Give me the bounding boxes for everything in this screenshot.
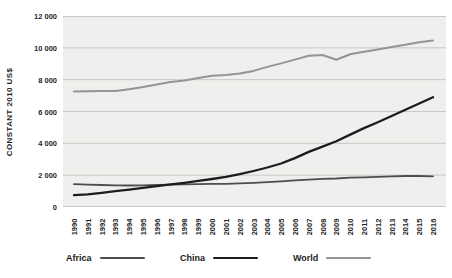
x-tick-label: 1998 xyxy=(180,219,189,236)
x-tick-label: 1996 xyxy=(152,219,161,236)
y-tick-label: 0 xyxy=(0,203,57,212)
x-tick-label: 2001 xyxy=(221,219,230,236)
y-tick-label: 10 000 xyxy=(0,43,57,52)
y-tick-label: 8 000 xyxy=(0,75,57,84)
line-chart-svg xyxy=(63,16,446,207)
legend-label-china: China xyxy=(180,253,205,263)
x-tick-label: 1997 xyxy=(166,219,175,236)
y-tick-label: 2 000 xyxy=(0,171,57,180)
legend-item-china: China xyxy=(180,252,258,264)
x-tick-label: 2012 xyxy=(373,219,382,236)
x-tick-label: 2006 xyxy=(290,219,299,236)
y-tick-label: 4 000 xyxy=(0,139,57,148)
legend-line-swatch-africa xyxy=(100,257,145,259)
y-tick-label: 6 000 xyxy=(0,107,57,116)
x-tick-label: 2013 xyxy=(387,219,396,236)
y-tick-label: 12 000 xyxy=(0,12,57,21)
x-tick-label: 1993 xyxy=(111,219,120,236)
x-tick-label: 1991 xyxy=(83,219,92,236)
x-tick-label: 2007 xyxy=(304,219,313,236)
x-tick-label: 1992 xyxy=(97,219,106,236)
gdp-per-capita-line-chart: CONSTANT 2010 US$ 02 0004 0006 0008 0001… xyxy=(0,0,452,278)
plot-area xyxy=(63,16,446,207)
x-tick-label: 2015 xyxy=(415,219,424,236)
x-tick-label: 1995 xyxy=(139,219,148,236)
legend-item-world: World xyxy=(293,252,371,264)
legend-item-africa: Africa xyxy=(66,252,145,264)
x-tick-label: 1994 xyxy=(125,219,134,236)
legend-line-swatch-china xyxy=(213,257,258,259)
x-tick-label: 2010 xyxy=(346,219,355,236)
x-tick-label: 2002 xyxy=(235,219,244,236)
x-tick-label: 2016 xyxy=(429,219,438,236)
x-tick-label: 2014 xyxy=(401,219,410,236)
legend-label-world: World xyxy=(293,253,318,263)
x-tick-label: 2005 xyxy=(277,219,286,236)
x-tick-label: 1990 xyxy=(70,219,79,236)
x-tick-label: 2004 xyxy=(263,219,272,236)
x-tick-label: 2008 xyxy=(318,219,327,236)
x-tick-label: 1999 xyxy=(194,219,203,236)
legend-label-africa: Africa xyxy=(66,253,92,263)
x-tick-label: 2003 xyxy=(249,219,258,236)
x-tick-label: 2000 xyxy=(208,219,217,236)
x-tick-label: 2009 xyxy=(332,219,341,236)
legend-line-swatch-world xyxy=(326,257,371,259)
x-tick-label: 2011 xyxy=(359,219,368,235)
